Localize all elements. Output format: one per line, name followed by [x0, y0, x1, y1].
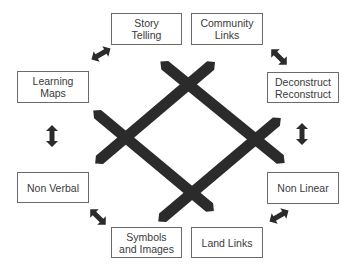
lattice-bar-bottom-left-to-right [90, 106, 218, 215]
node-symbols-and-images: Symbols and Images [111, 227, 182, 258]
node-story-telling: Story Telling [111, 13, 182, 45]
double-arrow-icon-nonlinear-landlinks [266, 205, 291, 226]
diagram-canvas: Story Telling Community Links Deconstruc… [0, 0, 353, 273]
lattice-bar-top-right-to-left [92, 58, 219, 168]
node-deconstruct-reconstruct: Deconstruct Reconstruct [267, 72, 339, 103]
double-arrow-icon-learning-nonverbal [46, 125, 58, 147]
double-arrow-icon-deconstruct-nonlinear [296, 123, 308, 145]
node-learning-maps: Learning Maps [17, 71, 89, 103]
double-arrow-icon-story-learning [88, 43, 113, 64]
lattice-bar-bottom-right-to-left [155, 114, 285, 226]
node-community-links: Community Links [191, 13, 263, 45]
node-non-verbal: Non Verbal [17, 172, 89, 203]
double-arrow-icon-nonverbal-symbols [86, 205, 110, 229]
node-land-links: Land Links [191, 227, 263, 258]
node-non-linear: Non Linear [267, 172, 339, 204]
double-arrow-icon-community-deconstruct [267, 45, 291, 69]
